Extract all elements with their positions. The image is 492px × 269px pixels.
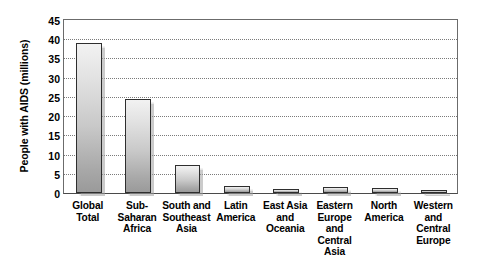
bar-slot bbox=[76, 20, 102, 193]
bar-slot bbox=[175, 20, 201, 193]
y-axis-title: People with AIDS (millions) bbox=[18, 16, 30, 196]
bar bbox=[421, 190, 447, 194]
y-axis-tick-label: 40 bbox=[48, 34, 60, 46]
category-label-line: Saharan bbox=[112, 212, 161, 224]
bar-chart: People with AIDS (millions) 051015202530… bbox=[0, 0, 492, 269]
x-axis-category-label: GlobalTotal bbox=[63, 200, 112, 223]
category-label-line: Africa bbox=[112, 223, 161, 235]
x-axis-category-label: LatinAmerica bbox=[211, 200, 260, 223]
category-label-line: Southeast bbox=[162, 212, 211, 224]
category-label-line: South and bbox=[162, 200, 211, 212]
category-label-line: Central Asia bbox=[310, 235, 359, 258]
category-label-line: and bbox=[261, 212, 310, 224]
y-axis-tick-label: 5 bbox=[54, 169, 60, 181]
category-label-line: America bbox=[211, 212, 260, 224]
bar bbox=[175, 165, 201, 193]
bar-series bbox=[64, 20, 457, 193]
x-axis-category-label: Sub-SaharanAfrica bbox=[112, 200, 161, 235]
bar bbox=[372, 188, 398, 193]
y-axis-tick-label: 0 bbox=[54, 188, 60, 200]
category-label-line: Oceania bbox=[261, 223, 310, 235]
y-axis-tick-label: 10 bbox=[48, 150, 60, 162]
plot-area: 051015202530354045 bbox=[63, 19, 458, 194]
bar-slot bbox=[421, 20, 447, 193]
category-label-line: and bbox=[409, 212, 458, 224]
y-axis-tick-label: 25 bbox=[48, 92, 60, 104]
x-axis-category-label: South andSoutheastAsia bbox=[162, 200, 211, 235]
category-label-line: Europe bbox=[310, 212, 359, 224]
bar bbox=[224, 186, 250, 193]
category-label-line: Central bbox=[409, 223, 458, 235]
bar-slot bbox=[273, 20, 299, 193]
x-axis-category-label: WesternandCentralEurope bbox=[409, 200, 458, 246]
y-axis-tick-label: 20 bbox=[48, 111, 60, 123]
y-axis-tick-label: 35 bbox=[48, 53, 60, 65]
x-axis-category-labels: GlobalTotalSub-SaharanAfricaSouth andSou… bbox=[63, 200, 458, 266]
category-label-line: North bbox=[359, 200, 408, 212]
category-label-line: America bbox=[359, 212, 408, 224]
category-label-line: Eastern bbox=[310, 200, 359, 212]
y-axis-tick-label: 30 bbox=[48, 73, 60, 85]
category-label-line: and bbox=[310, 223, 359, 235]
category-label-line: Sub- bbox=[112, 200, 161, 212]
category-label-line: Asia bbox=[162, 223, 211, 235]
x-axis-category-label: EasternEuropeandCentral Asia bbox=[310, 200, 359, 258]
x-axis-category-label: East AsiaandOceania bbox=[261, 200, 310, 235]
category-label-line: Total bbox=[63, 212, 112, 224]
category-label-line: Global bbox=[63, 200, 112, 212]
bar bbox=[125, 99, 151, 193]
bar-slot bbox=[224, 20, 250, 193]
bar-slot bbox=[323, 20, 349, 193]
y-axis-tick-label: 15 bbox=[48, 130, 60, 142]
bar bbox=[273, 189, 299, 193]
category-label-line: Western bbox=[409, 200, 458, 212]
category-label-line: Europe bbox=[409, 235, 458, 247]
bar-slot bbox=[125, 20, 151, 193]
bar bbox=[76, 43, 102, 193]
category-label-line: East Asia bbox=[261, 200, 310, 212]
category-label-line: Latin bbox=[211, 200, 260, 212]
bar-slot bbox=[372, 20, 398, 193]
gridline: 0 bbox=[64, 193, 457, 194]
bar bbox=[323, 187, 349, 193]
x-axis-category-label: NorthAmerica bbox=[359, 200, 408, 223]
y-axis-tick-label: 45 bbox=[48, 15, 60, 27]
